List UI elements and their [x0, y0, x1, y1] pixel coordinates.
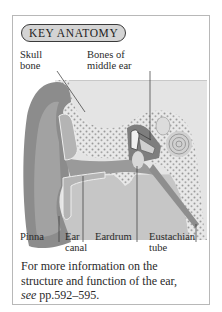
caption-line2: structure and function of the ear,	[21, 274, 206, 289]
label-eardrum: Eardrum	[95, 231, 132, 242]
caption-line3: see pp.592–595.	[21, 288, 206, 303]
caption: For more information on the structure an…	[21, 259, 206, 303]
label-ear-canal: Ear canal	[65, 231, 87, 253]
ear-anatomy-illustration	[13, 16, 211, 256]
caption-see: see	[21, 288, 36, 302]
label-eustachian-line2: tube	[149, 242, 195, 253]
label-ear-canal-line1: Ear	[65, 231, 87, 242]
caption-line1: For more information on the	[21, 259, 206, 274]
label-eustachian-tube: Eustachian tube	[149, 231, 195, 253]
label-eustachian-line1: Eustachian	[149, 231, 195, 242]
caption-page-reference: pp.592–595.	[36, 288, 99, 302]
label-pinna: Pinna	[20, 231, 44, 242]
key-anatomy-panel: KEY ANATOMY Skull bone Bones of middle e…	[12, 15, 210, 305]
label-ear-canal-line2: canal	[65, 242, 87, 253]
